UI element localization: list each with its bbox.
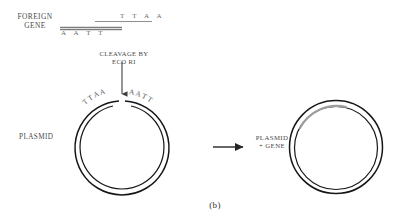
plasmid-right-recombinant [290,101,383,194]
figure-recombinant-plasmid: FOREIGN GENE T T A A A A T T CLEAVAGE BY… [0,0,420,222]
diagram-canvas: T T A A A A T T [0,0,420,222]
plasmid-left-outer-strand [75,101,169,195]
plasmid-gene-label-line2: + GENE [259,142,285,149]
plasmid-gene-label: PLASMID + GENE [252,134,292,150]
plasmid-left-inner-strand [80,106,164,189]
plasmid-label: PLASMID [19,133,53,141]
gene-insert-segment [300,106,346,128]
plasmid-right-outer-strand [290,101,383,194]
plasmid-left-sticky-bases-left: T T A A [80,87,106,107]
figure-caption: (b) [198,200,232,210]
plasmid-left [75,101,169,195]
plasmid-gene-label-line1: PLASMID [256,134,289,141]
